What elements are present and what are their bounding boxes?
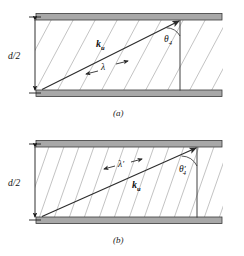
wavelength-label-a: λ bbox=[100, 62, 105, 72]
waveguide-bottom-wall-a bbox=[36, 90, 222, 97]
angle-label-a: θ4 bbox=[164, 34, 173, 46]
wavevector-label-b: ku bbox=[132, 179, 141, 192]
waveguide-bottom-wall-b bbox=[36, 217, 222, 224]
dimension-label-a: d/2 bbox=[8, 51, 20, 61]
wavelength-marker-a bbox=[86, 61, 128, 74]
wavevector-ray-a bbox=[42, 21, 179, 90]
dimension-label-b: d/2 bbox=[8, 178, 20, 188]
panel-b: d/2 ku λ′ θ′4 (b) bbox=[8, 138, 244, 245]
wavefronts-a bbox=[10, 11, 244, 97]
panel-a: d/2 ku λ θ4 (a) bbox=[8, 11, 244, 118]
angle-label-b: θ′4 bbox=[179, 164, 187, 176]
wavevector-label-a: ku bbox=[96, 38, 105, 51]
waveguide-top-wall-a bbox=[36, 14, 222, 21]
dimension-d-over-2-a bbox=[29, 17, 41, 93]
panel-caption-a: (a) bbox=[113, 108, 124, 118]
dimension-d-over-2-b bbox=[29, 144, 41, 220]
wavelength-label-b: λ′ bbox=[117, 159, 125, 169]
panel-caption-b: (b) bbox=[113, 235, 124, 245]
waveguide-figure: d/2 ku λ θ4 (a) bbox=[0, 0, 244, 256]
waveguide-top-wall-b bbox=[36, 141, 222, 148]
